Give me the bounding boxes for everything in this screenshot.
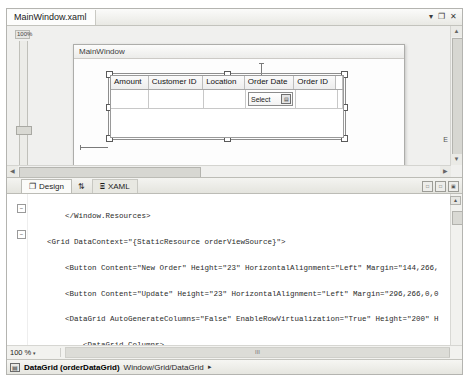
designer-horizontal-scrollbar[interactable]: ◀ ▶ <box>7 165 451 177</box>
artboard-body[interactable]: Amount Customer ID Location Order Date O… <box>74 59 404 177</box>
close-icon[interactable]: ✕ <box>450 13 457 21</box>
order-date-picker[interactable]: Select ▤ <box>248 92 293 106</box>
document-tab-label: MainWindow.xaml <box>14 12 87 22</box>
scroll-up-icon[interactable]: ▲ <box>451 26 462 37</box>
code-line-5: <DataGrid AutoGenerateColumns="False" En… <box>29 315 450 324</box>
expand-pane-icon[interactable]: □ <box>422 181 433 192</box>
column-header-amount[interactable]: Amount <box>111 76 149 89</box>
design-zoom-thumb[interactable] <box>16 126 32 135</box>
code-line-2: <Grid DataContext="{StaticResource order… <box>29 238 450 247</box>
visual-studio-designer-window: MainWindow.xaml ▾ ❐ ✕ 100% ✕ MainWindow <box>6 8 463 375</box>
document-tab-tools: ▾ ❐ ✕ <box>429 13 462 21</box>
editor-horizontal-scrollbar[interactable]: III <box>65 347 450 358</box>
editor-gutter: − − <box>7 194 28 345</box>
collapse-pane-icon[interactable]: □ <box>435 181 446 192</box>
editor-hscroll-grip: III <box>255 350 260 355</box>
fold-toggle-grid[interactable]: − <box>17 204 26 213</box>
cell-customer-id[interactable] <box>149 90 204 108</box>
designer-edge-marker: E <box>443 136 448 143</box>
element-path: Window/Grid/DataGrid <box>124 363 204 372</box>
design-view-icon: ❐ <box>29 180 36 193</box>
xaml-view-icon: ⌸ <box>100 180 105 193</box>
vertical-split-icon[interactable]: ▣ <box>448 181 459 192</box>
editor-vertical-scrollbar[interactable]: ▴ <box>450 194 462 345</box>
order-datagrid[interactable]: Amount Customer ID Location Order Date O… <box>110 75 344 138</box>
code-line-1: </Window.Resources> <box>29 212 450 221</box>
margin-grip-left[interactable] <box>80 147 108 148</box>
datagrid-row[interactable]: Select ▤ <box>111 90 343 109</box>
cell-filler <box>338 90 343 108</box>
editor-zoom-combo[interactable]: 100 % ▾ <box>10 347 56 358</box>
xaml-editor[interactable]: − − </Window.Resources> <Grid DataContex… <box>7 194 462 345</box>
designer-vscroll-thumb[interactable] <box>452 38 462 160</box>
tab-design-label: Design <box>39 180 64 193</box>
editor-zoom-value: 100 % <box>10 348 33 357</box>
datagrid-icon: ▤ <box>10 363 20 372</box>
xaml-code[interactable]: </Window.Resources> <Grid DataContext="{… <box>29 195 450 345</box>
cell-location[interactable] <box>204 90 246 108</box>
bottom-bar-separator <box>60 348 61 357</box>
tab-xaml-label: XAML <box>108 180 130 193</box>
cell-order-id[interactable] <box>296 90 338 108</box>
view-mode-bar: ❐ Design ⇅ ⌸ XAML □ □ ▣ <box>7 177 462 194</box>
column-header-location[interactable]: Location <box>203 76 245 89</box>
design-zoom-track[interactable] <box>19 41 28 177</box>
cell-amount[interactable] <box>111 90 149 108</box>
column-header-filler <box>336 76 343 89</box>
swap-panes-icon[interactable]: ⇅ <box>74 180 90 193</box>
artboard-title: MainWindow <box>74 45 404 59</box>
design-zoom-slider[interactable]: 100% ✕ <box>15 30 31 177</box>
selected-element-name: DataGrid (orderDataGrid) <box>24 363 120 372</box>
status-breadcrumb-bar: ▤ DataGrid (orderDataGrid) Window/Grid/D… <box>7 359 462 374</box>
document-tab-mainwindow-xaml[interactable]: MainWindow.xaml <box>7 10 96 25</box>
artboard-mainwindow[interactable]: MainWindow Amount Cust <box>73 44 405 177</box>
calendar-icon[interactable]: ▤ <box>281 94 291 104</box>
chevron-down-icon[interactable]: ▾ <box>33 350 36 356</box>
code-line-4: <Button Content="Update" Height="23" Hor… <box>29 290 450 299</box>
cell-order-date[interactable]: Select ▤ <box>246 90 296 108</box>
tab-xaml[interactable]: ⌸ XAML <box>92 179 138 193</box>
datagrid-header-row: Amount Customer ID Location Order Date O… <box>111 76 343 90</box>
editor-vscroll-thumb[interactable] <box>452 211 462 225</box>
scroll-left-icon[interactable]: ◀ <box>7 166 18 177</box>
document-tab-strip: MainWindow.xaml ▾ ❐ ✕ <box>7 9 462 26</box>
chevron-down-icon[interactable]: ▾ <box>429 13 433 21</box>
design-zoom-label: 100% <box>15 30 30 39</box>
editor-bottom-bar: 100 % ▾ III <box>7 345 462 359</box>
column-header-customer-id[interactable]: Customer ID <box>149 76 204 89</box>
scroll-down-icon[interactable]: ▼ <box>451 154 462 165</box>
scroll-right-icon[interactable]: ▶ <box>440 166 451 177</box>
code-line-6: <DataGrid.Columns> <box>29 341 450 345</box>
mode-bar-buttons: □ □ ▣ <box>422 181 459 192</box>
design-surface[interactable]: 100% ✕ MainWindow <box>7 26 462 177</box>
breadcrumb-arrow-icon[interactable]: ▸ <box>208 363 212 371</box>
date-picker-text: Select <box>251 96 270 103</box>
editor-split-icon[interactable]: ▴ <box>450 196 461 205</box>
fold-toggle-datagrid[interactable]: − <box>17 230 26 239</box>
designer-hscroll-thumb[interactable] <box>19 167 201 177</box>
tab-design[interactable]: ❐ Design <box>21 179 72 193</box>
column-header-order-date[interactable]: Order Date <box>245 76 295 89</box>
column-header-order-id[interactable]: Order ID <box>294 76 336 89</box>
code-line-3: <Button Content="New Order" Height="23" … <box>29 264 450 273</box>
restore-window-icon[interactable]: ❐ <box>438 13 445 21</box>
designer-vertical-scrollbar[interactable]: ▲ ▼ <box>450 26 462 165</box>
